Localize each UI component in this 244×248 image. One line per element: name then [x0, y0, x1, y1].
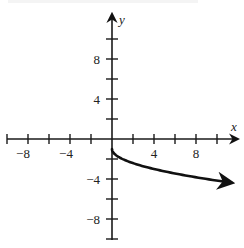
y-tick-label-4: 4 — [94, 92, 101, 107]
x-axis-label: x — [230, 119, 237, 134]
function-curve — [112, 149, 232, 183]
x-tick-label-neg4: −4 — [59, 146, 73, 161]
graph: −8 −4 4 8 8 4 −4 −8 x y — [0, 0, 244, 248]
x-tick-label-8: 8 — [193, 146, 200, 161]
y-tick-label-8: 8 — [94, 52, 101, 67]
y-axis-label: y — [117, 12, 125, 27]
y-tick-label-neg4: −4 — [86, 172, 100, 187]
y-tick-label-neg8: −8 — [86, 212, 100, 227]
x-tick-label-4: 4 — [151, 146, 158, 161]
x-tick-label-neg8: −8 — [16, 146, 30, 161]
